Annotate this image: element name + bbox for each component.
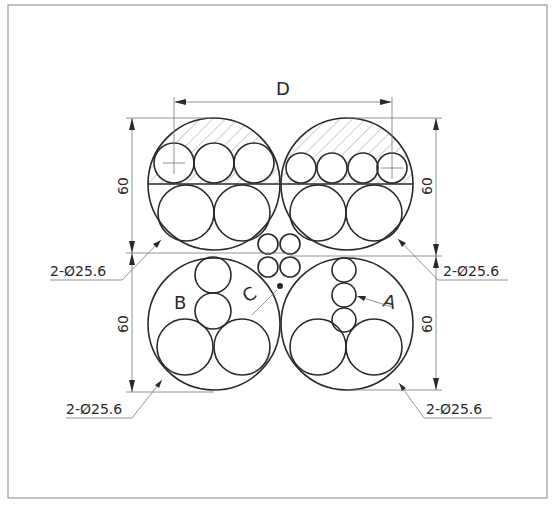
label-b: B [174, 292, 186, 313]
height-dim-bottom-left: 60 [115, 315, 131, 333]
bundle-bottom-left [148, 257, 280, 390]
callout-bottom-left: 2-Ø25.6 [66, 380, 162, 418]
center-dot [277, 283, 283, 289]
callout-bottom-right: 2-Ø25.6 [399, 383, 492, 418]
callout-top-right: 2-Ø25.6 [398, 239, 508, 280]
bundle-top-right [275, 110, 425, 264]
callout-label: 2-Ø25.6 [443, 263, 499, 279]
height-dim-top-left: 60 [115, 177, 131, 195]
callout-label: 2-Ø25.6 [50, 263, 106, 279]
height-dim-top-right: 60 [419, 177, 435, 195]
dimension-d-label: D [276, 78, 290, 99]
height-dim-bottom-right: 60 [419, 315, 435, 333]
label-c: C [239, 282, 260, 306]
label-a: A [381, 290, 399, 314]
cable-cross-section-drawing: D 60 60 60 60 2-Ø25.6 2-Ø25.6 [0, 0, 554, 506]
bundle-top-left [140, 110, 290, 264]
callout-label: 2-Ø25.6 [66, 401, 122, 417]
bundle-bottom-right [281, 258, 413, 390]
callout-label: 2-Ø25.6 [426, 401, 482, 417]
callout-top-left: 2-Ø25.6 [50, 240, 161, 280]
